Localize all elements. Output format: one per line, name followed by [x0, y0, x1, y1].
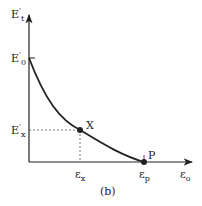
- point-x: [77, 127, 83, 133]
- e0-label: E'0: [11, 52, 26, 67]
- epsilon-x-label: εx: [75, 169, 85, 183]
- diagram-canvas: [0, 0, 202, 206]
- point-x-label: X: [86, 120, 94, 131]
- epsilon-p-label: εp: [139, 169, 150, 183]
- caption: (b): [100, 186, 116, 197]
- ex-label: E'x: [11, 124, 25, 139]
- curve: [29, 58, 144, 162]
- point-p-label: P: [148, 150, 155, 161]
- y-axis-label: E't: [11, 8, 24, 23]
- epsilon-o-label: εo: [180, 169, 191, 183]
